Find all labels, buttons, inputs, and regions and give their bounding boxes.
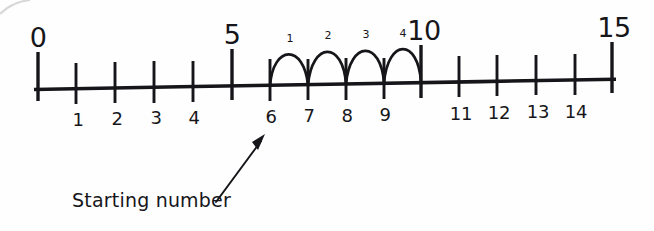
hop-label-1: 1 [287, 32, 294, 45]
label-major-5: 5 [224, 19, 241, 50]
label-major-0: 0 [30, 22, 47, 53]
number-line-figure: 0 5 10 15 1 2 3 4 6 7 8 9 11 12 13 14 1 … [0, 0, 654, 231]
hop-arc-2 [308, 52, 346, 85]
label-minor-6: 6 [265, 106, 276, 127]
hop-label-3: 3 [363, 28, 370, 41]
label-minor-2: 2 [111, 108, 122, 129]
label-minor-7: 7 [303, 105, 314, 126]
label-minor-11: 11 [450, 103, 472, 124]
label-minor-14: 14 [565, 101, 587, 122]
hop-label-2: 2 [325, 29, 332, 42]
hop-label-4: 4 [400, 27, 407, 40]
label-minor-8: 8 [341, 105, 352, 126]
label-minor-12: 12 [488, 102, 510, 123]
label-major-15: 15 [597, 12, 630, 43]
label-minor-3: 3 [150, 107, 161, 128]
starting-number-caption: Starting number [72, 189, 231, 211]
page-corner-artifact [0, 0, 30, 14]
label-major-10: 10 [407, 15, 440, 46]
starting-number-pointer-arrowhead [252, 134, 265, 150]
label-minor-4: 4 [188, 107, 199, 128]
label-minor-13: 13 [527, 101, 549, 122]
hop-arc-1 [270, 54, 308, 86]
hop-arc-4 [384, 49, 421, 83]
axis-line [34, 79, 616, 89]
hop-arc-3 [346, 51, 384, 84]
label-minor-9: 9 [379, 104, 390, 125]
number-line-canvas: 0 5 10 15 1 2 3 4 6 7 8 9 11 12 13 14 1 … [0, 0, 654, 231]
label-minor-1: 1 [72, 109, 83, 130]
